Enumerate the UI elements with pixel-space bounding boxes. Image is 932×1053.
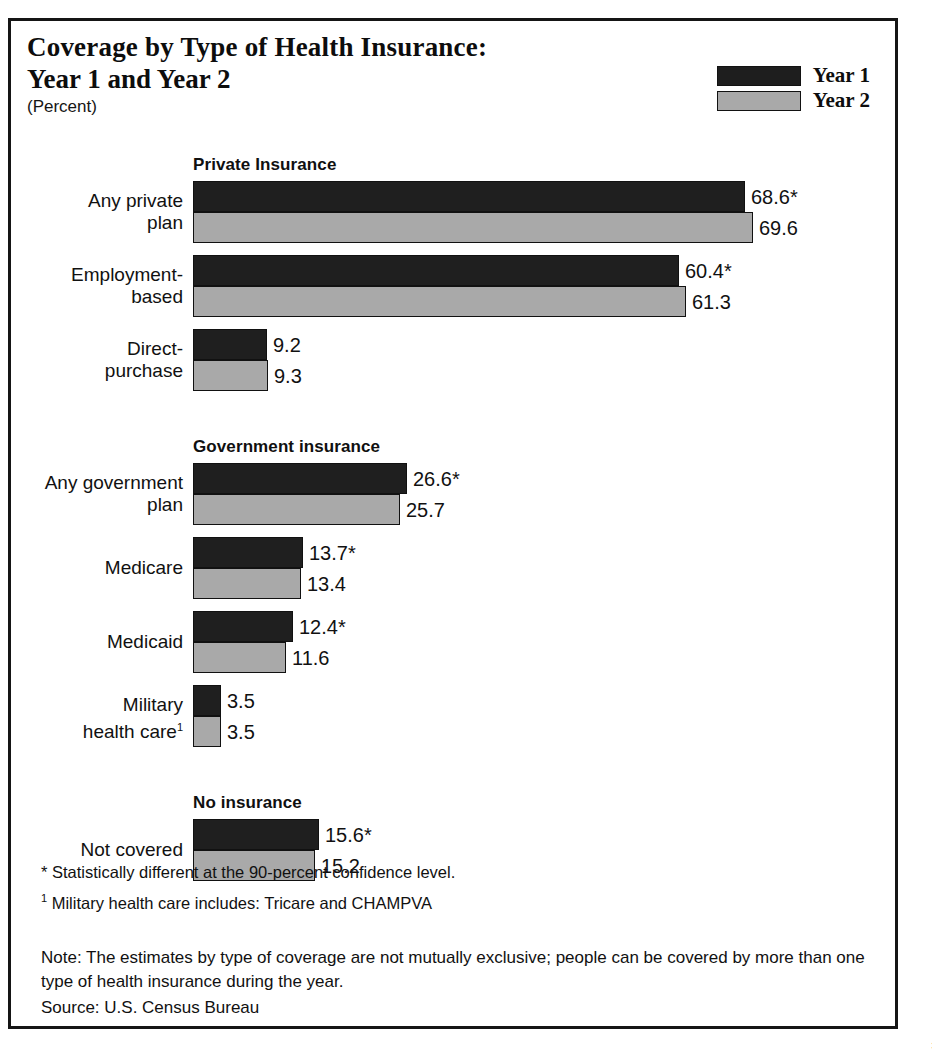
category-label-line2: based [11, 286, 183, 308]
bar-value-label: 13.7* [309, 541, 356, 564]
bar-value-label: 9.2 [273, 333, 301, 356]
category-label-line1: Medicaid [11, 631, 183, 653]
bar-pair: 68.6*69.6 [193, 181, 753, 243]
bar-year2: 13.4 [193, 568, 301, 599]
bar-value-label: 61.3 [692, 290, 731, 313]
bar-value-label: 69.6 [759, 216, 798, 239]
category-label: Medicaid [11, 631, 183, 653]
category-label-line1: Employment- [11, 264, 183, 286]
bar-value-label: 3.5 [227, 720, 255, 743]
category-label: Medicare [11, 557, 183, 579]
category-label: Not covered [11, 839, 183, 861]
bar-pair: 9.29.3 [193, 329, 268, 391]
group-title: No insurance [193, 793, 302, 813]
bar-year1: 13.7* [193, 537, 303, 568]
bar-year2: 11.6 [193, 642, 286, 673]
category-label-line2: health care1 [11, 716, 183, 743]
bar-pair: 12.4*11.6 [193, 611, 293, 673]
note-text: Note: The estimates by type of coverage … [41, 946, 871, 994]
footnote-military-text: Military health care includes: Tricare a… [47, 894, 432, 912]
bar-year2: 9.3 [193, 360, 268, 391]
bar-year1: 12.4* [193, 611, 293, 642]
bar-year1: 9.2 [193, 329, 267, 360]
category-label-line1: Medicare [11, 557, 183, 579]
category-label-line1: Military [11, 694, 183, 716]
group-title: Private Insurance [193, 155, 336, 175]
footnote-military: 1 Military health care includes: Tricare… [41, 885, 741, 916]
bar-year2: 3.5 [193, 716, 221, 747]
category-label-line1: Any government [11, 472, 183, 494]
bar-year1: 60.4* [193, 255, 679, 286]
category-label-line1: Direct- [11, 338, 183, 360]
category-label-line2: purchase [11, 360, 183, 382]
category-label-line2: plan [11, 494, 183, 516]
bar-year1: 26.6* [193, 463, 407, 494]
source-text: Source: U.S. Census Bureau [41, 996, 871, 1020]
bar-pair: 3.53.5 [193, 685, 221, 747]
category-label: Employment-based [11, 264, 183, 308]
bar-value-label: 60.4* [685, 259, 732, 282]
category-label: Direct-purchase [11, 338, 183, 382]
bar-value-label: 13.4 [307, 572, 346, 595]
category-label: Militaryhealth care1 [11, 694, 183, 743]
bar-value-label: 11.6 [292, 646, 329, 669]
bar-value-label: 12.4* [299, 615, 346, 638]
bar-year1: 68.6* [193, 181, 745, 212]
bar-value-label: 68.6* [751, 185, 798, 208]
bar-value-label: 9.3 [274, 364, 302, 387]
category-label-line2: plan [11, 212, 183, 234]
bar-pair: 13.7*13.4 [193, 537, 303, 599]
group-title: Government insurance [193, 437, 380, 457]
bar-pair: 26.6*25.7 [193, 463, 407, 525]
category-label: Any privateplan [11, 190, 183, 234]
note-block: Note: The estimates by type of coverage … [41, 946, 871, 1020]
footnotes: * Statistically different at the 90-perc… [41, 859, 741, 916]
bar-value-label: 25.7 [406, 498, 445, 521]
bar-year2: 69.6 [193, 212, 753, 243]
bar-year2: 61.3 [193, 286, 686, 317]
bar-year1: 15.6* [193, 819, 319, 850]
bar-value-label: 15.6* [325, 823, 372, 846]
category-label: Any governmentplan [11, 472, 183, 516]
bar-value-label: 26.6* [413, 467, 460, 490]
category-label-line1: Not covered [11, 839, 183, 861]
chart-frame: Coverage by Type of Health Insurance: Ye… [8, 18, 898, 1029]
bar-year1: 3.5 [193, 685, 221, 716]
category-label-line1: Any private [11, 190, 183, 212]
footnote-asterisk: * Statistically different at the 90-perc… [41, 859, 741, 885]
bar-pair: 60.4*61.3 [193, 255, 686, 317]
bar-year2: 25.7 [193, 494, 400, 525]
bar-value-label: 3.5 [227, 689, 255, 712]
